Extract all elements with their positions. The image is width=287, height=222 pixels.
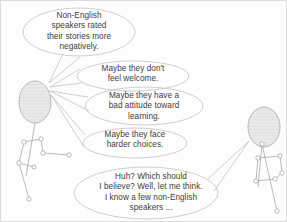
right-figure-body	[256, 144, 282, 211]
welcome-bubble-outline	[77, 61, 189, 91]
choices-bubble-tail	[51, 95, 85, 147]
right-stick-figure	[248, 107, 284, 213]
finding-bubble-outline	[23, 8, 135, 56]
diagram-scene	[1, 1, 287, 222]
left-figure-body	[19, 123, 69, 199]
thinking-bubble-tail	[208, 141, 249, 191]
choices-bubble-outline	[83, 128, 187, 158]
right-figure-joints	[254, 142, 284, 213]
attitude-bubble-outline	[85, 87, 203, 125]
left-stick-figure	[17, 81, 71, 201]
thinking-bubble-outline	[74, 167, 218, 219]
bubble-outlines	[23, 8, 249, 219]
right-figure-head	[248, 107, 280, 147]
left-figure-head	[19, 81, 51, 123]
left-figure-joints	[17, 137, 71, 201]
diagram-canvas: Non-English speakers rated their stories…	[0, 0, 287, 222]
